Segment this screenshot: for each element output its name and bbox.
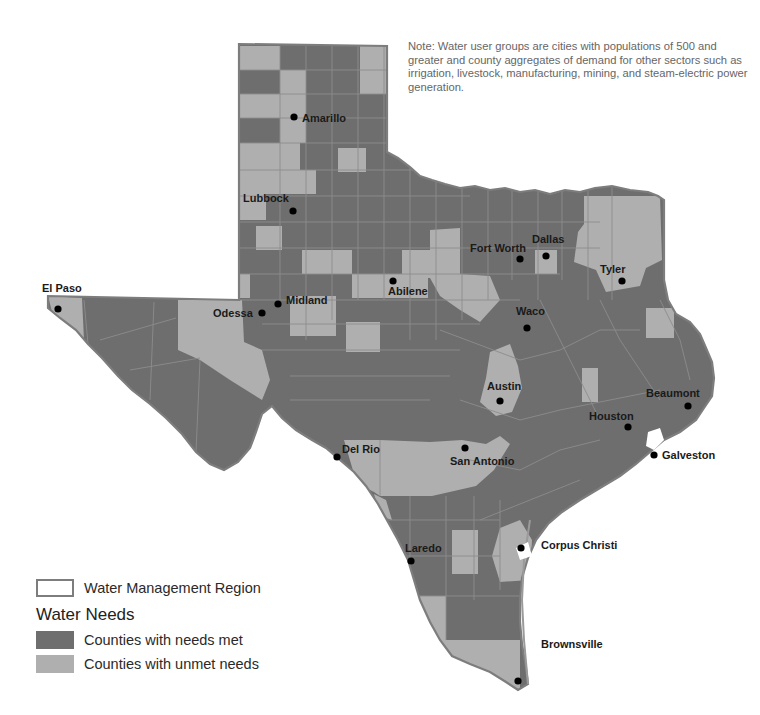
city-label-dallas: Dallas (532, 233, 564, 245)
city-label-corpus-christi: Corpus Christi (541, 539, 617, 551)
city-label-austin: Austin (487, 380, 522, 392)
city-label-amarillo: Amarillo (302, 112, 346, 124)
city-label-brownsville: Brownsville (541, 638, 603, 650)
city-label-midland: Midland (286, 294, 328, 306)
city-label-beaumont: Beaumont (646, 387, 700, 399)
map-note: Note: Water user groups are cities with … (408, 40, 748, 94)
city-dot-odessa (258, 309, 265, 316)
city-label-waco: Waco (516, 305, 545, 317)
city-dot-lubbock (289, 207, 296, 214)
city-label-lubbock: Lubbock (243, 192, 290, 204)
map-legend: Water Management Region Water Needs Coun… (36, 576, 261, 676)
city-dot-corpus-christi (517, 544, 524, 551)
legend-label-unmet: Counties with unmet needs (84, 656, 259, 672)
unmet-needs-swatch (36, 655, 74, 673)
city-dot-brownsville (514, 677, 521, 684)
city-dot-del-rio (333, 453, 340, 460)
city-dot-beaumont (684, 402, 691, 409)
city-label-odessa: Odessa (213, 307, 254, 319)
legend-row-region: Water Management Region (36, 576, 261, 600)
city-label-el-paso: El Paso (42, 282, 82, 294)
city-dot-midland (274, 300, 281, 307)
city-label-del-rio: Del Rio (342, 443, 380, 455)
city-dot-fort-worth (516, 255, 523, 262)
city-label-abilene: Abilene (388, 285, 428, 297)
needs-met-swatch (36, 631, 74, 649)
city-label-tyler: Tyler (600, 263, 626, 275)
city-label-houston: Houston (589, 410, 634, 422)
city-dot-dallas (542, 252, 549, 259)
city-label-galveston: Galveston (662, 449, 715, 461)
city-dot-el-paso (54, 305, 61, 312)
legend-row-unmet: Counties with unmet needs (36, 652, 261, 676)
city-dot-galveston (650, 451, 657, 458)
region-swatch (36, 579, 74, 597)
legend-label-region: Water Management Region (84, 580, 261, 596)
city-dot-san-antonio (461, 444, 468, 451)
city-label-fort-worth: Fort Worth (470, 242, 526, 254)
legend-label-met: Counties with needs met (84, 632, 243, 648)
city-dot-waco (523, 324, 530, 331)
city-dot-austin (496, 397, 503, 404)
city-dot-abilene (389, 277, 396, 284)
legend-row-met: Counties with needs met (36, 628, 261, 652)
city-dot-tyler (618, 277, 625, 284)
city-label-laredo: Laredo (405, 542, 442, 554)
legend-heading: Water Needs (36, 602, 261, 628)
city-dot-laredo (407, 557, 414, 564)
city-dot-amarillo (290, 113, 297, 120)
city-dot-houston (624, 423, 631, 430)
city-label-san-antonio: San Antonio (450, 455, 515, 467)
